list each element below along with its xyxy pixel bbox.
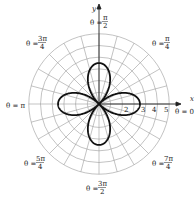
polar-chart: y x 2 3 4 5 θ = π 2 θ = π 4 θ = 0 θ = 7π… xyxy=(0,0,195,197)
svg-text:3: 3 xyxy=(141,106,145,114)
svg-text:2: 2 xyxy=(103,22,107,30)
svg-text:4: 4 xyxy=(152,106,157,114)
x-axis-arrow-icon xyxy=(176,102,181,106)
grid-spoke xyxy=(99,69,160,104)
angle-label-pi: θ = π xyxy=(6,102,26,110)
y-axis-arrow-icon xyxy=(97,4,101,9)
grid-spoke xyxy=(38,104,99,139)
x-axis-label: x xyxy=(190,95,194,103)
svg-text:3π: 3π xyxy=(98,180,107,188)
angle-label-3pi-over-2: θ = 3π 2 xyxy=(86,180,107,196)
angle-label-pi-over-4: θ = π 4 xyxy=(152,35,170,51)
svg-text:θ =: θ = xyxy=(152,40,164,48)
grid-spoke xyxy=(99,104,134,165)
svg-text:π: π xyxy=(165,35,170,43)
svg-text:π: π xyxy=(103,14,108,22)
axes xyxy=(97,4,181,106)
grid-spoke xyxy=(49,104,99,154)
grid-spoke xyxy=(99,54,149,104)
grid-spoke xyxy=(99,43,134,104)
svg-text:5π: 5π xyxy=(36,155,45,163)
grid-spoke xyxy=(38,69,99,104)
svg-text:θ =: θ = xyxy=(24,160,36,168)
grid-spoke xyxy=(64,104,99,165)
radial-tick-labels: 2 3 4 5 xyxy=(124,106,168,114)
angle-label-5pi-over-4: θ = 5π 4 xyxy=(24,155,45,171)
angle-label-7pi-over-4: θ = 7π 4 xyxy=(152,155,173,171)
angle-label-3pi-over-4: θ = 3π 4 xyxy=(26,35,47,51)
y-axis-label: y xyxy=(91,5,97,13)
grid-spoke xyxy=(64,43,99,104)
svg-text:2: 2 xyxy=(100,188,104,196)
grid-spoke xyxy=(49,54,99,104)
svg-text:4: 4 xyxy=(40,43,45,51)
svg-text:4: 4 xyxy=(165,43,170,51)
svg-text:5: 5 xyxy=(164,106,168,114)
svg-text:4: 4 xyxy=(38,163,43,171)
angle-label-0: θ = 0 xyxy=(175,108,194,116)
svg-text:3π: 3π xyxy=(38,35,47,43)
grid-spoke xyxy=(99,104,160,139)
svg-text:7π: 7π xyxy=(164,155,173,163)
svg-text:θ =: θ = xyxy=(26,40,38,48)
svg-text:θ =: θ = xyxy=(86,185,98,193)
svg-text:θ =: θ = xyxy=(90,19,102,27)
svg-text:2: 2 xyxy=(124,106,128,114)
svg-text:4: 4 xyxy=(166,163,171,171)
svg-text:θ =: θ = xyxy=(152,160,164,168)
